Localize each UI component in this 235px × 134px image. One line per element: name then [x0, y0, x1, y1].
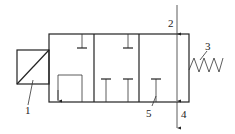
valve-diagram: 1 2 3 4 5 — [0, 0, 235, 134]
cell-1 — [58, 34, 87, 102]
spring-symbol — [189, 58, 223, 72]
label-1: 1 — [25, 104, 31, 116]
label-2: 2 — [168, 17, 174, 29]
label-3: 3 — [205, 40, 211, 52]
valve-body — [49, 34, 189, 102]
label-5: 5 — [146, 107, 152, 119]
leader-5 — [152, 96, 156, 106]
cell-2 — [101, 34, 133, 102]
solenoid-symbol — [17, 50, 49, 84]
label-4: 4 — [181, 108, 187, 120]
